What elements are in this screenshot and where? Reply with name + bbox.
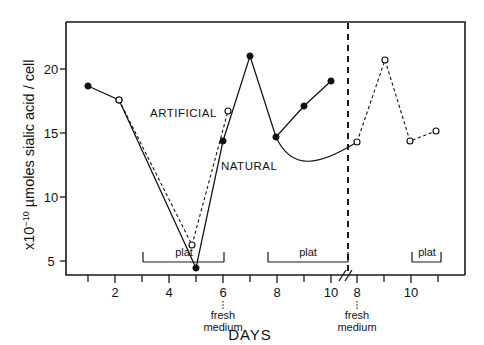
medium-label-2: medium [337,321,376,333]
x-tick-10: 10 [324,285,338,300]
data-point [225,108,231,114]
trend-curve [276,137,357,161]
x-tick-2: 2 [111,285,118,300]
fresh-label-1: fresh [211,309,235,321]
y-axis-label: x10−10 µmoles sialic acid / cell [21,60,37,250]
data-point [189,242,195,248]
chart-figure: x10−10 µmoles sialic acid / cell 20 15 1… [0,0,484,345]
x-tick-6: 6 [219,285,226,300]
plat-label-3: plat [418,246,436,258]
x-tick-4: 4 [165,285,172,300]
data-point [85,83,91,89]
series-natural [85,53,334,271]
y-tick-10: 10 [44,190,58,205]
plat-label-2: plat [299,246,317,258]
data-point [116,97,122,103]
x-tick-8: 8 [273,285,280,300]
svg-text:x10−10 µmoles sialic acid / ce: x10−10 µmoles sialic acid / cell [21,60,37,250]
data-point [382,57,388,63]
plat-bracket-1: plat [143,246,224,262]
y-tick-20: 20 [44,62,58,77]
x-tick-10b: 10 [404,285,418,300]
data-point [354,139,360,145]
y-tick-5: 5 [47,254,54,269]
plot-frame [66,22,465,275]
data-point [433,128,439,134]
plat-bracket-2: plat [268,246,348,262]
data-point [247,53,253,59]
fresh-medium-annotation-2: fresh medium [337,301,376,333]
x-axis-ticks: 2 4 6 8 10 8 10 [88,275,438,300]
x-tick-8b: 8 [353,285,360,300]
y-axis-label-rest: µmoles sialic acid / cell [21,60,37,208]
x-axis-title: DAYS [228,326,272,343]
series-label-natural: NATURAL [221,160,277,172]
plat-bracket-3: plat [412,246,441,262]
data-point [301,103,307,109]
chart-svg: x10−10 µmoles sialic acid / cell 20 15 1… [0,0,484,345]
series-artificial-right [354,57,439,145]
fresh-label-2: fresh [345,309,369,321]
data-point [193,265,199,271]
data-point [407,138,413,144]
series-artificial-left [116,97,231,248]
data-point [220,138,226,144]
y-axis-ticks: 20 15 10 5 [44,62,66,269]
y-tick-15: 15 [44,126,58,141]
y-axis-label-exponent: −10 [21,211,31,226]
y-axis-label-prefix: x10 [21,227,37,250]
data-point [328,78,334,84]
series-label-artificial: ARTIFICIAL [150,107,217,119]
